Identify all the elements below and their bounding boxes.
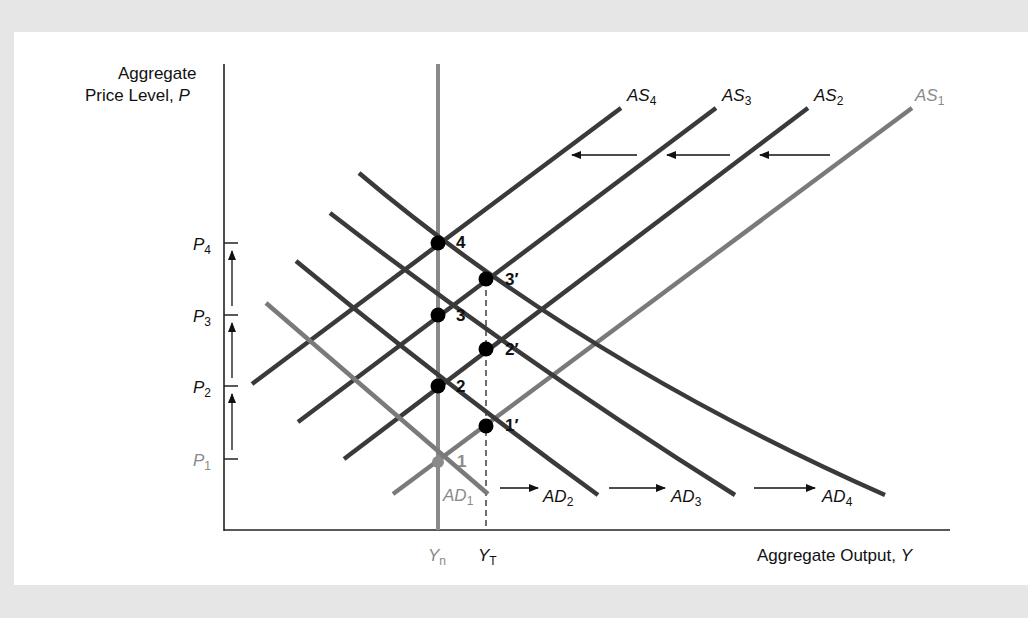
label-ad2: AD2 <box>543 488 573 508</box>
label-p3: P3 <box>193 308 211 328</box>
p4-letter: P <box>193 235 204 254</box>
label-ad3: AD3 <box>671 488 701 508</box>
ad4-sub: 4 <box>846 495 853 509</box>
label-p4: P4 <box>193 236 211 256</box>
as1-curve <box>393 108 912 494</box>
point-2 <box>431 379 446 394</box>
as3-sub: 3 <box>745 94 752 108</box>
x-axis-title: Aggregate Output, Y <box>757 547 912 564</box>
label-yn: Yn <box>428 547 446 567</box>
label-as2: AS2 <box>814 87 843 107</box>
p3-sub: 3 <box>204 315 211 329</box>
p1-letter: P <box>193 451 204 470</box>
as4-letters: AS <box>627 86 650 105</box>
label-as3: AS3 <box>722 87 751 107</box>
point-label-1-prime: 1′ <box>505 417 519 434</box>
ad1-curve <box>266 303 488 494</box>
p2-letter: P <box>193 378 204 397</box>
ad4-letters: AD <box>822 487 846 506</box>
y-axis-title-text: Price Level, <box>85 86 179 105</box>
point-3 <box>431 308 446 323</box>
point-label-2-prime: 2′ <box>505 341 519 358</box>
x-axis-title-text: Aggregate Output, <box>757 546 901 565</box>
ad2-sub: 2 <box>567 495 574 509</box>
as4-sub: 4 <box>650 94 657 108</box>
point-4 <box>431 236 446 251</box>
y-axis-title-line2: Price Level, P <box>85 87 190 104</box>
y-axis-title-line1: Aggregate <box>118 65 196 82</box>
point-label-3-prime: 3′ <box>505 271 519 288</box>
p3-letter: P <box>193 307 204 326</box>
point-label-1: 1 <box>457 453 466 470</box>
point-3-prime <box>479 272 494 287</box>
label-ad1: AD1 <box>443 487 473 507</box>
yt-sub: T <box>489 554 496 568</box>
point-1 <box>432 456 444 468</box>
y-axis-var: P <box>179 86 190 105</box>
ad2-letters: AD <box>543 487 567 506</box>
as1-sub: 1 <box>938 94 945 108</box>
ad3-letters: AD <box>671 487 695 506</box>
point-1-prime <box>479 419 494 434</box>
label-as1: AS1 <box>915 87 944 107</box>
ad3-sub: 3 <box>695 495 702 509</box>
yt-letter: Y <box>478 546 489 565</box>
label-ad4: AD4 <box>822 488 852 508</box>
ad1-sub: 1 <box>467 494 474 508</box>
label-p2: P2 <box>193 379 211 399</box>
as2-letters: AS <box>814 86 837 105</box>
label-p1: P1 <box>193 452 211 472</box>
as1-letters: AS <box>915 86 938 105</box>
yn-sub: n <box>439 554 446 568</box>
p1-sub: 1 <box>204 459 211 473</box>
yn-letter: Y <box>428 546 439 565</box>
label-as4: AS4 <box>627 87 656 107</box>
as2-curve <box>344 108 808 459</box>
point-2-prime <box>479 342 494 357</box>
as2-sub: 2 <box>837 94 844 108</box>
label-yt: YT <box>478 547 497 567</box>
as3-curve <box>298 108 716 422</box>
p2-sub: 2 <box>204 386 211 400</box>
point-label-3: 3 <box>456 307 465 324</box>
as3-letters: AS <box>722 86 745 105</box>
ad1-letters: AD <box>443 486 467 505</box>
point-label-2: 2 <box>456 378 465 395</box>
x-axis-var: Y <box>901 546 912 565</box>
p4-sub: 4 <box>204 243 211 257</box>
point-label-4: 4 <box>456 234 465 251</box>
